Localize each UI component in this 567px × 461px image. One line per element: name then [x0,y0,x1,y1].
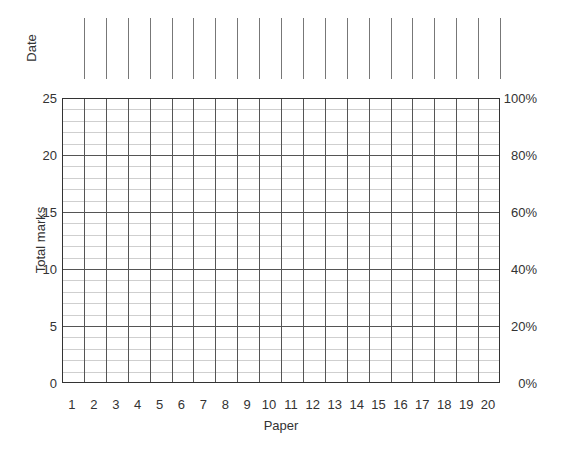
x-tick-label: 4 [134,397,141,412]
date-column-divider [193,18,194,79]
date-column-divider [456,18,457,79]
x-tick-label: 19 [459,397,473,412]
date-column-divider [215,18,216,79]
date-column-divider [237,18,238,79]
x-tick-label: 17 [415,397,429,412]
x-tick-label: 6 [178,397,185,412]
x-tick-label: 20 [481,397,495,412]
percent-tick-label: 40% [511,262,537,277]
y-axis-label: Total marks [33,207,48,273]
percent-tick-label: 0% [518,376,537,391]
date-column-divider [259,18,260,79]
x-tick-label: 11 [284,397,298,412]
date-column-divider [500,18,501,79]
x-tick-label: 18 [437,397,451,412]
date-label: Date [24,34,39,61]
date-column-divider [172,18,173,79]
x-axis-label: Paper [264,418,299,433]
x-tick-label: 7 [200,397,207,412]
date-column-divider [106,18,107,79]
x-tick-label: 2 [90,397,97,412]
percent-tick-label: 60% [511,205,537,220]
y-tick-label: 5 [50,319,57,334]
date-column-divider [128,18,129,79]
x-tick-label: 13 [328,397,342,412]
percent-tick-label: 100% [504,91,537,106]
date-column-divider [281,18,282,79]
percent-tick-label: 80% [511,148,537,163]
date-column-divider [325,18,326,79]
date-column-divider [434,18,435,79]
date-column-divider [391,18,392,79]
percent-tick-label: 20% [511,319,537,334]
x-tick-label: 16 [393,397,407,412]
x-tick-label: 3 [112,397,119,412]
y-tick-label: 20 [43,148,57,163]
chart-frame [62,98,500,383]
x-tick-label: 15 [371,397,385,412]
date-column-divider [369,18,370,79]
date-column-divider [303,18,304,79]
date-column-divider [478,18,479,79]
date-column-divider [347,18,348,79]
x-tick-label: 5 [156,397,163,412]
date-column-divider [412,18,413,79]
y-tick-label: 0 [50,376,57,391]
x-tick-label: 12 [306,397,320,412]
x-tick-label: 1 [68,397,75,412]
x-tick-label: 10 [262,397,276,412]
y-tick-label: 25 [43,91,57,106]
date-column-divider [150,18,151,79]
x-tick-label: 8 [222,397,229,412]
x-tick-label: 14 [349,397,363,412]
x-tick-label: 9 [244,397,251,412]
date-column-divider [84,18,85,79]
